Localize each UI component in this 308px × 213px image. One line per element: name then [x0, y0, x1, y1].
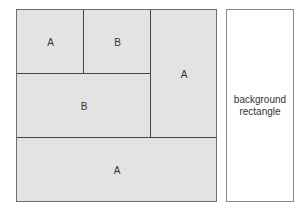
- region-bottom: A: [17, 138, 217, 202]
- divider: [17, 73, 151, 74]
- region-label: A: [114, 165, 121, 176]
- region-label: B: [81, 101, 88, 112]
- layout-container: A B A B A: [16, 9, 217, 202]
- background-rectangle: background rectangle: [226, 9, 294, 202]
- region-right-column: A: [151, 10, 217, 138]
- background-label-line1: background: [234, 94, 286, 106]
- region-top-left: A: [17, 10, 84, 74]
- divider: [150, 10, 151, 138]
- divider: [83, 10, 84, 74]
- region-label: B: [114, 37, 121, 48]
- region-middle-left: B: [17, 74, 151, 138]
- region-label: A: [47, 37, 54, 48]
- divider: [17, 137, 217, 138]
- region-label: A: [181, 69, 188, 80]
- background-label-line2: rectangle: [234, 106, 286, 118]
- region-top-middle: B: [84, 10, 151, 74]
